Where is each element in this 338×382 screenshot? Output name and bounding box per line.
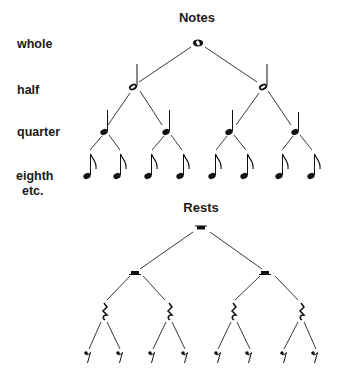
quarter-rest-icon — [232, 303, 236, 320]
quarter-rest-icon — [300, 303, 304, 320]
whole-rest-icon — [195, 226, 207, 230]
eighth-rest-icon — [245, 351, 251, 363]
quarter-rest-icon — [103, 303, 107, 320]
eighth-rest-icon — [84, 351, 90, 363]
eighth-rest-icon — [181, 351, 187, 363]
rests-tree — [0, 0, 338, 382]
eighth-rest-icon — [311, 351, 317, 363]
eighth-rest-icon — [214, 351, 220, 363]
eighth-rest-icon — [148, 351, 154, 363]
eighth-rest-icon — [280, 351, 286, 363]
eighth-rest-icon — [116, 351, 122, 363]
rests-tree-branches — [89, 232, 316, 349]
quarter-rest-icon — [168, 303, 172, 320]
half-rest-icon — [259, 271, 271, 275]
half-rest-icon — [129, 271, 141, 275]
